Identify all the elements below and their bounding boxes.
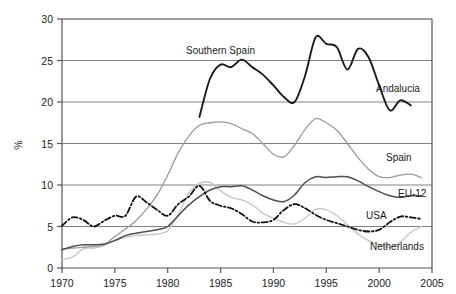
x-tick-label: 1985 xyxy=(209,277,233,289)
x-tick-label: 1990 xyxy=(262,277,286,289)
chart-container: 051015202530 197019751980198519901995200… xyxy=(0,0,456,294)
series-label-spain: Spain xyxy=(386,152,412,163)
y-tick-label: 15 xyxy=(41,138,53,150)
y-tick-label: 30 xyxy=(41,13,53,25)
y-tick-label: 5 xyxy=(47,221,53,233)
x-tick-label: 2005 xyxy=(420,277,444,289)
series-label-eu12: EU-12 xyxy=(398,188,427,199)
series-line-usa xyxy=(62,186,421,232)
series-line-spain xyxy=(62,118,421,249)
series-label-netherlands: Netherlands xyxy=(370,241,424,252)
series-label-southern-spain: Southern Spain xyxy=(186,45,255,56)
y-tick-label: 10 xyxy=(41,179,53,191)
x-tick-label: 1970 xyxy=(50,277,74,289)
x-tick-label: 1995 xyxy=(315,277,339,289)
x-tick-label: 2000 xyxy=(367,277,391,289)
series-label-usa: USA xyxy=(366,210,387,221)
x-tick-label: 1975 xyxy=(103,277,127,289)
x-axis-ticks: 19701975198019851990199520002005 xyxy=(50,268,444,289)
series-label-andalucia: Andalucia xyxy=(376,83,420,94)
y-axis-title: % xyxy=(12,140,24,149)
line-chart: 051015202530 197019751980198519901995200… xyxy=(0,0,456,294)
y-tick-label: 0 xyxy=(47,262,53,274)
y-tick-label: 25 xyxy=(41,55,53,67)
x-tick-label: 1980 xyxy=(156,277,180,289)
y-tick-label: 20 xyxy=(41,96,53,108)
y-axis-ticks: 051015202530 xyxy=(41,13,62,274)
